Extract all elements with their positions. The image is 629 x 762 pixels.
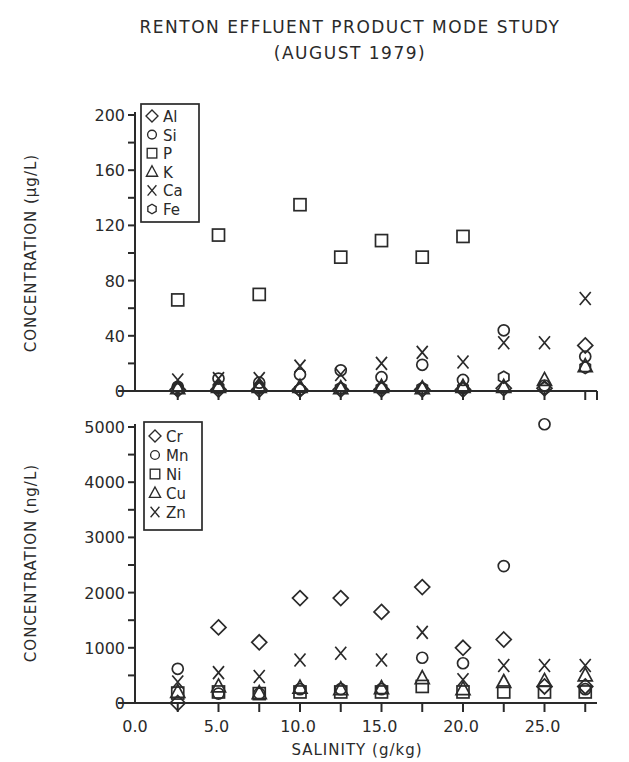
data-point-x-icon	[498, 659, 509, 672]
data-point-x-icon	[498, 336, 509, 349]
data-point-square-icon	[213, 229, 225, 241]
legend-label: Si	[163, 127, 177, 145]
x-tick-label: 15.0	[362, 717, 398, 736]
data-point-square-icon	[416, 251, 428, 263]
y-axis-label: CONCENTRATION (ng/L)	[22, 464, 40, 662]
data-point-circle-icon	[498, 561, 509, 572]
data-point-x-icon	[580, 659, 591, 672]
legend: AlSiPKCaFe	[141, 104, 199, 222]
data-point-diamond-icon	[496, 632, 511, 647]
y-tick-label: 120	[94, 216, 125, 235]
y-tick-label: 80	[105, 272, 125, 291]
data-point-circle-icon	[417, 652, 428, 663]
lower-panel: 0100020003000400050000.05.010.015.020.02…	[22, 418, 597, 759]
data-point-diamond-icon	[456, 640, 471, 655]
data-point-square-icon	[335, 251, 347, 263]
series-mn	[172, 419, 591, 699]
data-point-x-icon	[417, 626, 428, 639]
chart-canvas: 04080120160200CONCENTRATION (µg/L)AlSiPK…	[0, 0, 629, 762]
data-point-square-icon	[172, 294, 184, 306]
x-tick-label: 25.0	[525, 717, 561, 736]
y-tick-label: 0	[115, 382, 125, 401]
data-point-circle-icon	[498, 325, 509, 336]
legend-label: Mn	[166, 447, 188, 465]
legend-label: K	[163, 164, 174, 182]
data-point-x-icon	[254, 670, 265, 683]
x-tick-label: 20.0	[443, 717, 479, 736]
data-point-diamond-icon	[374, 604, 389, 619]
y-tick-label: 40	[105, 327, 125, 346]
upper-panel: 04080120160200CONCENTRATION (µg/L)AlSiPK…	[22, 104, 597, 401]
data-point-square-icon	[416, 680, 428, 692]
data-point-x-icon	[458, 673, 469, 686]
data-point-square-icon	[253, 288, 265, 300]
data-point-diamond-icon	[293, 591, 308, 606]
y-tick-label: 1000	[84, 639, 125, 658]
data-point-x-icon	[580, 292, 591, 305]
legend-label: Fe	[163, 201, 180, 219]
data-point-x-icon	[295, 653, 306, 666]
legend-label: P	[163, 145, 172, 163]
data-point-x-icon	[539, 336, 550, 349]
y-tick-label: 2000	[84, 584, 125, 603]
legend-label: Cr	[166, 428, 183, 446]
data-point-square-icon	[376, 235, 388, 247]
legend-label: Cu	[166, 485, 186, 503]
data-point-circle-icon	[458, 658, 469, 669]
series-cr	[170, 580, 593, 711]
y-tick-label: 200	[94, 106, 125, 125]
legend-label: Al	[163, 108, 177, 126]
legend-label: Ni	[166, 466, 181, 484]
data-point-triangle-icon	[456, 682, 470, 695]
series-al	[170, 338, 593, 397]
x-tick-label: 10.0	[280, 717, 316, 736]
x-tick-label: 5.0	[204, 717, 229, 736]
data-point-x-icon	[295, 360, 306, 373]
data-point-square-icon	[539, 686, 551, 698]
series-p	[172, 199, 469, 306]
y-tick-label: 0	[115, 694, 125, 713]
x-tick-label: 0.0	[122, 717, 147, 736]
data-point-x-icon	[376, 357, 387, 370]
y-tick-label: 3000	[84, 528, 125, 547]
data-point-diamond-icon	[252, 635, 267, 650]
legend-label: Zn	[166, 504, 186, 522]
y-tick-label: 5000	[84, 418, 125, 437]
data-point-diamond-icon	[211, 620, 226, 635]
data-point-x-icon	[335, 647, 346, 660]
legend: CrMnNiCuZn	[144, 422, 202, 530]
data-point-square-icon	[294, 199, 306, 211]
y-tick-label: 160	[94, 161, 125, 180]
data-point-triangle-icon	[415, 671, 429, 684]
data-point-diamond-icon	[415, 580, 430, 595]
data-point-circle-icon	[172, 663, 183, 674]
data-point-diamond-icon	[333, 591, 348, 606]
y-axis-label: CONCENTRATION (µg/L)	[22, 154, 40, 352]
data-point-x-icon	[417, 346, 428, 359]
data-point-x-icon	[539, 659, 550, 672]
data-point-x-icon	[458, 356, 469, 369]
data-point-x-icon	[376, 653, 387, 666]
x-axis-label: SALINITY (g/kg)	[291, 741, 422, 759]
data-point-circle-icon	[539, 419, 550, 430]
y-tick-label: 4000	[84, 473, 125, 492]
legend-label: Ca	[163, 182, 183, 200]
data-point-square-icon	[457, 230, 469, 242]
data-point-circle-icon	[417, 359, 428, 370]
